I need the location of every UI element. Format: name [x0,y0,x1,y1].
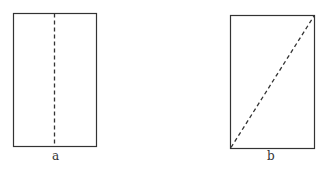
label-b: b [267,149,275,163]
figure-a: a [14,14,97,164]
fold-line-diagonal [231,16,314,148]
label-a: a [52,149,59,163]
fold-diagram: a b [0,0,329,170]
figure-b: b [231,16,315,164]
